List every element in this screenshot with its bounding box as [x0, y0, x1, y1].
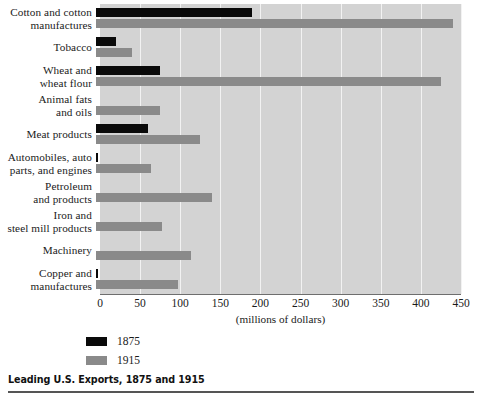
x-axis-title: (millions of dollars) — [100, 313, 461, 325]
bars-cell — [96, 4, 483, 33]
category-label: Wheat andwheat flour — [0, 64, 96, 89]
bar-1915 — [96, 193, 212, 202]
legend-item-1915: 1915 — [86, 352, 140, 368]
legend-label-1915: 1915 — [117, 354, 140, 366]
bars-cell — [96, 91, 483, 120]
bars-cell — [96, 207, 483, 236]
bar-1875 — [96, 124, 148, 133]
x-tick-50: 50 — [134, 296, 146, 310]
bar-1915 — [96, 251, 191, 260]
category-label-line: Automobiles, auto — [0, 151, 92, 163]
bars-cell — [96, 265, 483, 294]
legend-swatch-1875 — [86, 337, 107, 346]
x-axis-ticks: 050100150200250300350400450 — [0, 296, 483, 312]
legend-swatch-1915 — [86, 356, 107, 365]
x-axis-line — [100, 294, 461, 295]
bars-cell — [96, 62, 483, 91]
bar-rows: Cotton and cottonmanufacturesTobaccoWhea… — [0, 4, 483, 294]
plot-area: Cotton and cottonmanufacturesTobaccoWhea… — [0, 0, 483, 300]
x-tick-250: 250 — [292, 296, 309, 310]
x-tick-350: 350 — [372, 296, 389, 310]
bar-1875 — [96, 269, 98, 278]
category-label-line: Cotton and cotton — [0, 6, 92, 18]
bar-1915 — [96, 135, 200, 144]
category-label-line: manufactures — [0, 19, 92, 31]
x-tick-300: 300 — [332, 296, 349, 310]
bar-1915 — [96, 106, 160, 115]
bars-cell — [96, 120, 483, 149]
bar-row: Petroleumand products — [0, 178, 483, 207]
category-label-line: Iron and — [0, 209, 92, 221]
category-label: Iron andsteel mill products — [0, 209, 96, 234]
x-tick-200: 200 — [252, 296, 269, 310]
x-tick-150: 150 — [212, 296, 229, 310]
category-label-line: steel mill products — [0, 222, 92, 234]
bar-1915 — [96, 280, 178, 289]
category-label: Machinery — [0, 244, 96, 256]
category-label-line: and products — [0, 193, 92, 205]
bar-row: Animal fatsand oils — [0, 91, 483, 120]
bar-row: Tobacco — [0, 33, 483, 62]
category-label: Cotton and cottonmanufactures — [0, 6, 96, 31]
x-tick-100: 100 — [172, 296, 189, 310]
category-label-line: Wheat and — [0, 64, 92, 76]
bar-1915 — [96, 19, 453, 28]
x-tick-450: 450 — [452, 296, 469, 310]
x-tick-0: 0 — [97, 296, 103, 310]
category-label-line: wheat flour — [0, 77, 92, 89]
bar-row: Machinery — [0, 236, 483, 265]
category-label: Automobiles, autoparts, and engines — [0, 151, 96, 176]
bar-1875 — [96, 66, 160, 75]
bar-row: Wheat andwheat flour — [0, 62, 483, 91]
bar-row: Copper andmanufactures — [0, 265, 483, 294]
bar-row: Meat products — [0, 120, 483, 149]
category-label-line: parts, and engines — [0, 164, 92, 176]
category-label: Animal fatsand oils — [0, 93, 96, 118]
bar-1915 — [96, 48, 132, 57]
legend-label-1875: 1875 — [117, 335, 140, 347]
category-label: Meat products — [0, 128, 96, 140]
bar-1875 — [96, 37, 116, 46]
legend: 1875 1915 — [86, 333, 140, 371]
bars-cell — [96, 33, 483, 62]
category-label-line: Copper and — [0, 267, 92, 279]
category-label-line: Meat products — [0, 128, 92, 140]
category-label-line: Tobacco — [0, 41, 92, 53]
bar-row: Iron andsteel mill products — [0, 207, 483, 236]
category-label: Tobacco — [0, 41, 96, 53]
category-label-line: Machinery — [0, 244, 92, 256]
bar-row: Automobiles, autoparts, and engines — [0, 149, 483, 178]
category-label-line: Animal fats — [0, 93, 92, 105]
bar-1915 — [96, 77, 441, 86]
legend-item-1875: 1875 — [86, 333, 140, 349]
figure-caption: Leading U.S. Exports, 1875 and 1915 — [8, 374, 205, 385]
bars-cell — [96, 178, 483, 207]
caption-rule — [8, 391, 474, 393]
bar-1915 — [96, 222, 162, 231]
category-label-line: and oils — [0, 106, 92, 118]
chart-figure: Cotton and cottonmanufacturesTobaccoWhea… — [0, 0, 483, 401]
bar-1915 — [96, 164, 151, 173]
x-tick-400: 400 — [412, 296, 429, 310]
category-label: Copper andmanufactures — [0, 267, 96, 292]
category-label: Petroleumand products — [0, 180, 96, 205]
bar-1875 — [96, 153, 98, 162]
category-label-line: Petroleum — [0, 180, 92, 192]
category-label-line: manufactures — [0, 280, 92, 292]
bars-cell — [96, 149, 483, 178]
bar-1875 — [96, 8, 252, 17]
bars-cell — [96, 236, 483, 265]
bar-row: Cotton and cottonmanufactures — [0, 4, 483, 33]
